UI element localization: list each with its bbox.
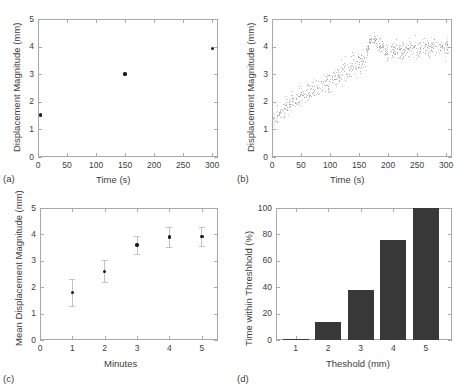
scatter-point bbox=[353, 55, 354, 56]
scatter-point bbox=[293, 105, 294, 106]
y-tick-mark bbox=[40, 234, 44, 235]
scatter-point bbox=[320, 88, 321, 89]
scatter-point bbox=[309, 86, 310, 87]
scatter-point bbox=[306, 90, 307, 91]
scatter-point bbox=[342, 69, 343, 70]
scatter-point bbox=[376, 39, 377, 40]
scatter-point bbox=[432, 51, 433, 52]
scatter-point bbox=[405, 55, 406, 56]
scatter-point bbox=[283, 104, 284, 105]
scatter-point bbox=[400, 59, 401, 60]
scatter-point bbox=[361, 54, 362, 55]
y-tick-mark bbox=[214, 74, 218, 75]
scatter-point bbox=[380, 38, 381, 39]
bar bbox=[315, 322, 341, 340]
scatter-point bbox=[395, 48, 396, 49]
error-bar-cap bbox=[134, 236, 140, 237]
scatter-point bbox=[310, 89, 311, 90]
y-tick-mark bbox=[276, 287, 280, 288]
x-tick-mark bbox=[202, 336, 203, 340]
figure-panel-grid: 012345050100150200250300 Displacement Ma… bbox=[0, 0, 465, 388]
y-tick-mark bbox=[448, 102, 452, 103]
scatter-point bbox=[335, 75, 336, 76]
scatter-point bbox=[396, 39, 397, 40]
scatter-point bbox=[351, 67, 352, 68]
scatter-point bbox=[394, 50, 395, 51]
panel-c-y-axis-label: Mean Displacement Magnitude (mm) bbox=[14, 190, 24, 346]
panel-b-tag: (b) bbox=[237, 174, 249, 184]
x-tick-label: 100 bbox=[314, 161, 346, 170]
y-tick-mark bbox=[40, 340, 44, 341]
y-tick-mark bbox=[214, 19, 218, 20]
scatter-point bbox=[287, 110, 288, 111]
scatter-point bbox=[445, 61, 446, 62]
scatter-point bbox=[330, 75, 331, 76]
scatter-point bbox=[281, 112, 282, 113]
x-tick-mark bbox=[272, 153, 273, 157]
scatter-point bbox=[277, 129, 278, 130]
x-tick-mark bbox=[183, 153, 184, 157]
x-tick-mark bbox=[296, 208, 297, 212]
scatter-point bbox=[387, 51, 388, 52]
scatter-point bbox=[321, 91, 322, 92]
scatter-point bbox=[402, 41, 403, 42]
scatter-point bbox=[444, 47, 445, 48]
scatter-point bbox=[374, 32, 375, 33]
scatter-point bbox=[418, 48, 419, 49]
scatter-point bbox=[386, 54, 387, 55]
x-tick-mark bbox=[40, 208, 41, 212]
scatter-point bbox=[369, 39, 370, 40]
x-tick-label: 4 bbox=[153, 344, 185, 353]
panel-d-y-axis-label: Time within Threshhold (%) bbox=[244, 231, 254, 346]
scatter-point bbox=[308, 85, 309, 86]
scatter-point bbox=[303, 95, 304, 96]
y-tick-mark bbox=[448, 129, 452, 130]
scatter-point bbox=[292, 101, 293, 102]
scatter-point bbox=[334, 73, 335, 74]
scatter-point bbox=[447, 41, 448, 42]
scatter-point bbox=[382, 47, 383, 48]
scatter-point bbox=[329, 89, 330, 90]
y-tick-label: 0 bbox=[246, 153, 268, 162]
y-tick-mark bbox=[40, 287, 44, 288]
scatter-point bbox=[446, 45, 447, 46]
scatter-point bbox=[409, 51, 410, 52]
y-tick-mark bbox=[276, 340, 280, 341]
scatter-point bbox=[363, 67, 364, 68]
scatter-point bbox=[352, 65, 353, 66]
scatter-point bbox=[383, 43, 384, 44]
x-tick-mark bbox=[359, 19, 360, 23]
scatter-point bbox=[376, 43, 377, 44]
x-tick-mark bbox=[125, 153, 126, 157]
scatter-point bbox=[352, 70, 353, 71]
data-point bbox=[123, 72, 126, 75]
y-tick-mark bbox=[272, 47, 276, 48]
y-tick-mark bbox=[214, 47, 218, 48]
scatter-point bbox=[415, 35, 416, 36]
y-tick-mark bbox=[448, 47, 452, 48]
x-tick-mark bbox=[96, 153, 97, 157]
scatter-point bbox=[308, 99, 309, 100]
x-tick-label: 150 bbox=[343, 161, 375, 170]
scatter-point bbox=[341, 59, 342, 60]
scatter-point bbox=[387, 53, 388, 54]
scatter-point bbox=[357, 62, 358, 63]
scatter-point bbox=[297, 102, 298, 103]
scatter-point bbox=[286, 99, 287, 100]
scatter-point bbox=[333, 80, 334, 81]
y-tick-mark bbox=[214, 234, 218, 235]
scatter-point bbox=[283, 111, 284, 112]
scatter-point bbox=[400, 57, 401, 58]
scatter-point bbox=[394, 57, 395, 58]
scatter-point bbox=[348, 67, 349, 68]
scatter-point bbox=[316, 80, 317, 81]
scatter-point bbox=[313, 81, 314, 82]
scatter-point bbox=[380, 45, 381, 46]
scatter-point bbox=[344, 63, 345, 64]
y-tick-label: 100 bbox=[250, 204, 272, 213]
scatter-point bbox=[387, 60, 388, 61]
scatter-point bbox=[356, 69, 357, 70]
scatter-point bbox=[366, 49, 367, 50]
y-tick-mark bbox=[38, 74, 42, 75]
x-tick-mark bbox=[417, 153, 418, 157]
